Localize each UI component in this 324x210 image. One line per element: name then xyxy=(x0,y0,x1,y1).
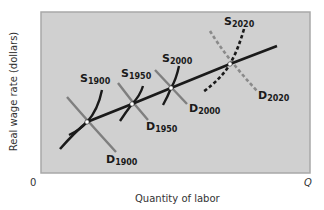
equilibrium-point-2000 xyxy=(169,86,173,90)
equilibrium-point-1950 xyxy=(130,102,134,106)
label-d2000: D2000 xyxy=(189,102,220,116)
equilibrium-point-2020 xyxy=(228,62,232,66)
label-s2000: S2000 xyxy=(162,52,192,66)
x-end-label: Q xyxy=(304,177,312,188)
label-s1950: S1950 xyxy=(121,67,151,81)
y-axis-label: Real wage rate (dollars) xyxy=(8,32,19,152)
origin-label: 0 xyxy=(30,177,36,188)
label-s1900: S1900 xyxy=(80,72,110,86)
x-axis-label: Quantity of labor xyxy=(135,193,220,204)
label-d2020: D2020 xyxy=(258,89,289,103)
label-d1950: D1950 xyxy=(146,120,177,134)
label-d1900: D1900 xyxy=(106,153,137,167)
label-s2020: S2020 xyxy=(224,15,254,29)
equilibrium-point-1900 xyxy=(85,120,89,124)
labor-market-diagram xyxy=(0,0,324,210)
